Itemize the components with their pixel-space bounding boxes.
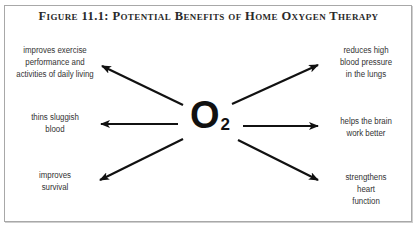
oxygen-letter: O — [190, 94, 220, 136]
benefit-brain: helps the brain work better — [327, 115, 406, 139]
benefit-lung-pressure: reduces high blood pressure in the lungs — [327, 44, 406, 80]
benefit-line: work better — [327, 127, 406, 139]
benefit-line: improves — [14, 169, 96, 181]
benefit-line: activities of daily living — [14, 68, 96, 80]
benefit-line: reduces high — [327, 44, 406, 56]
benefit-line: function — [327, 195, 406, 207]
benefit-exercise: improves exercise performance and activi… — [14, 44, 96, 80]
benefit-line: helps the brain — [327, 115, 406, 127]
benefit-line: in the lungs — [327, 68, 406, 80]
benefit-line: survival — [14, 181, 96, 193]
benefit-survival: improves survival — [14, 169, 96, 193]
benefit-heart: strengthens heart function — [327, 171, 406, 207]
benefit-line: blood pressure — [327, 56, 406, 68]
oxygen-symbol: O2 — [190, 96, 229, 142]
arrow-upper-right — [232, 65, 318, 104]
arrow-lower-right — [238, 140, 318, 180]
arrow-lower-left — [100, 139, 183, 180]
benefit-line: heart — [327, 183, 406, 195]
benefit-line: strengthens — [327, 171, 406, 183]
oxygen-subscript: 2 — [221, 115, 230, 134]
arrow-upper-left — [102, 66, 183, 105]
benefit-blood: thins sluggish blood — [14, 111, 96, 135]
benefit-line: improves exercise — [14, 44, 96, 56]
benefit-line: performance and — [14, 56, 96, 68]
benefit-line: blood — [14, 123, 96, 135]
benefit-line: thins sluggish — [14, 111, 96, 123]
